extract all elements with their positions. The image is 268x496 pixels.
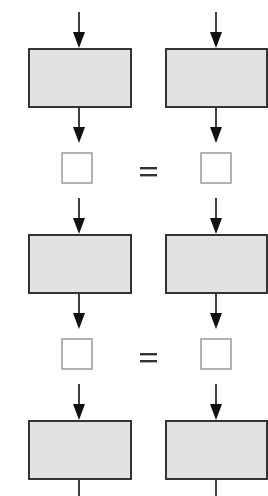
- output-box-right-2: [201, 339, 231, 369]
- input-arrow-right-2: [210, 198, 222, 234]
- output-box-right-1: [201, 153, 231, 183]
- output-arrow-left-2: [73, 294, 85, 329]
- output-box-left-2: [62, 339, 92, 369]
- input-arrow-left-3: [73, 384, 85, 420]
- process-box-left-2: [29, 235, 131, 293]
- flow-diagram: [0, 0, 268, 496]
- input-arrow-right-1: [210, 12, 222, 48]
- output-arrow-left-1: [73, 108, 85, 143]
- input-arrow-left-2: [73, 198, 85, 234]
- output-arrow-right-1: [210, 108, 222, 143]
- output-box-left-1: [62, 153, 92, 183]
- process-box-left-1: [29, 49, 131, 107]
- output-arrow-right-2: [210, 294, 222, 329]
- equals-sign-1: [140, 167, 157, 176]
- process-box-right-2: [166, 235, 267, 293]
- process-box-right-3: [166, 421, 267, 479]
- equals-sign-2: [140, 353, 157, 362]
- process-box-left-3: [29, 421, 131, 479]
- input-arrow-right-3: [210, 384, 222, 420]
- process-box-right-1: [166, 49, 267, 107]
- input-arrow-left-1: [73, 12, 85, 48]
